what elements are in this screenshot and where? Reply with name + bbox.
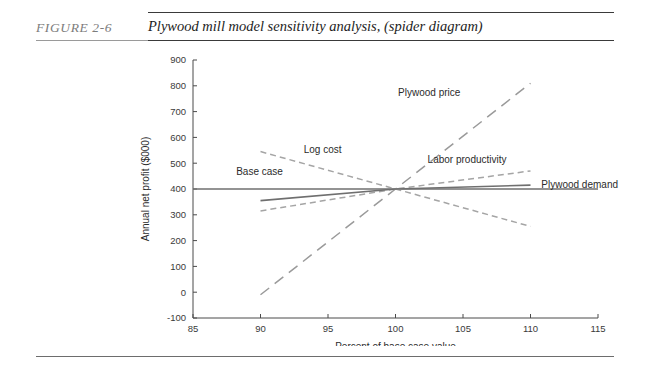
y-axis-title: Annual net profit ($000) [140, 137, 151, 242]
footer-rule [36, 356, 614, 357]
x-tick-label: 105 [455, 323, 471, 334]
x-tick-label: 90 [255, 323, 266, 334]
series-line-labor-productivity [261, 171, 531, 211]
y-tick-label: 500 [170, 158, 186, 169]
y-tick-label: 900 [170, 54, 186, 65]
figure-header: FIGURE 2-6 Plywood mill model sensitivit… [0, 12, 650, 46]
y-tick-label: 600 [170, 132, 186, 143]
spider-diagram-chart: -1000100200300400500600700800900 8590951… [0, 46, 650, 346]
y-tick-label: -100 [167, 312, 186, 323]
series-label-labor-productivity: Labor productivity [428, 154, 507, 165]
x-axis-ticks: 859095100105110115 [188, 314, 606, 334]
x-tick-label: 110 [523, 323, 538, 334]
series-label-plywood-price: Plywood price [398, 87, 461, 98]
header-rule-mid-right [148, 40, 614, 41]
header-rule-mid-left [36, 40, 148, 41]
series-label-plywood-demand: Plywood demand [541, 179, 618, 190]
header-rule-top [148, 12, 614, 13]
y-tick-label: 200 [170, 235, 186, 246]
y-tick-label: 400 [170, 183, 186, 194]
y-tick-label: 0 [181, 287, 186, 298]
chart-svg: -1000100200300400500600700800900 8590951… [0, 46, 650, 346]
y-tick-label: 700 [170, 106, 186, 117]
series-label-log-cost: Log cost [304, 144, 342, 155]
x-tick-label: 100 [388, 323, 404, 334]
x-tick-label: 85 [188, 323, 199, 334]
series-line-plywood-demand [261, 185, 531, 200]
figure-number: FIGURE 2-6 [36, 20, 112, 36]
y-axis-ticks: -1000100200300400500600700800900 [167, 54, 197, 323]
x-tick-label: 95 [323, 323, 334, 334]
figure-caption: Plywood mill model sensitivity analysis,… [148, 18, 483, 35]
series-label-base-case: Base case [236, 166, 283, 177]
chart-series-lines [193, 83, 598, 295]
y-tick-label: 800 [170, 80, 186, 91]
chart-series-labels: Base casePlywood priceLog costLabor prod… [236, 87, 618, 190]
y-tick-label: 300 [170, 209, 186, 220]
y-tick-label: 100 [170, 261, 186, 272]
x-tick-label: 115 [590, 323, 605, 334]
x-axis-title: Percent of base case value [335, 341, 456, 346]
